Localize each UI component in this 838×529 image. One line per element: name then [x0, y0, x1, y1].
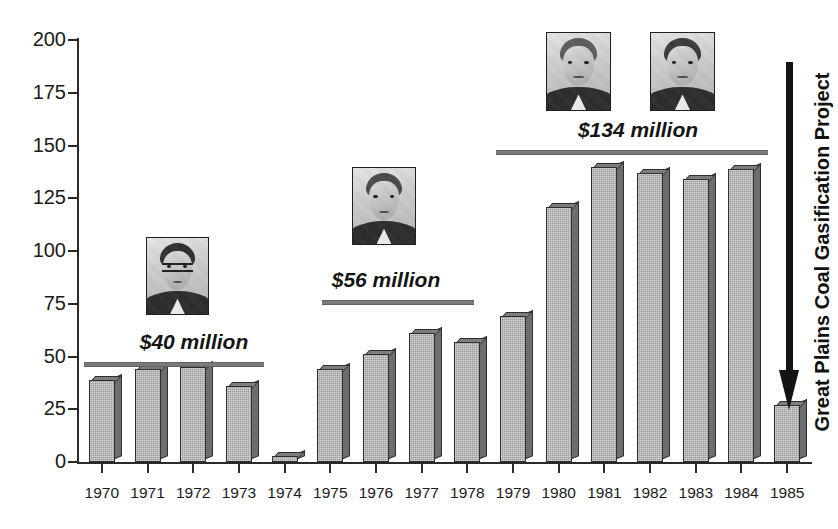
- bar-side-face: [115, 374, 122, 459]
- x-tick-mark: [558, 464, 560, 473]
- x-tick-label-1976: 1976: [350, 484, 402, 501]
- bar-front-face: [317, 369, 343, 462]
- x-tick-mark: [375, 464, 377, 473]
- bar-front-face: [135, 369, 161, 462]
- photo-grain: [547, 33, 610, 110]
- bar-front-face: [591, 167, 617, 462]
- bar-front-face: [683, 179, 709, 462]
- bar-1981: [591, 167, 617, 462]
- y-tick-label-text: 150: [20, 135, 66, 155]
- bar-side-face: [252, 380, 259, 459]
- x-tick-mark: [238, 464, 240, 473]
- portrait-photo-era-1: [146, 237, 209, 315]
- era-2-label: $56 million: [306, 268, 466, 291]
- bar-side-face: [526, 310, 533, 459]
- bar-side-face: [343, 363, 350, 459]
- bar-1971: [135, 369, 161, 462]
- bar-front-face: [226, 386, 252, 462]
- portrait-photo-era-3-b: [650, 32, 715, 111]
- bar-1985: [774, 405, 800, 462]
- bar-side-face: [709, 173, 716, 459]
- down-arrow-icon: [779, 62, 799, 410]
- x-tick-mark: [512, 464, 514, 473]
- y-tick-label-text: 175: [20, 82, 66, 102]
- era-1-rule: [84, 362, 264, 367]
- x-tick-label-1982: 1982: [624, 484, 676, 501]
- bar-front-face: [637, 173, 663, 462]
- x-tick-label-1970: 1970: [76, 484, 128, 501]
- x-tick-label-1977: 1977: [396, 484, 448, 501]
- x-tick-label-1973: 1973: [213, 484, 265, 501]
- bar-side-face: [480, 336, 487, 459]
- x-tick-mark: [147, 464, 149, 473]
- bar-chart: 2001751501251007550250 19701971197219731…: [0, 0, 838, 529]
- x-tick-mark: [695, 464, 697, 473]
- x-tick-label-1980: 1980: [533, 484, 585, 501]
- x-tick-mark: [466, 464, 468, 473]
- bar-front-face: [546, 207, 572, 462]
- bar-1982: [637, 173, 663, 462]
- y-tick-label: 200: [10, 29, 66, 49]
- y-tick-label: 50: [10, 346, 66, 366]
- y-tick-label: 0: [10, 451, 66, 471]
- x-tick-mark: [740, 464, 742, 473]
- x-tick-label-1971: 1971: [122, 484, 174, 501]
- y-tick-mark: [68, 461, 77, 463]
- y-tick-label: 125: [10, 187, 66, 207]
- x-tick-label-1984: 1984: [715, 484, 767, 501]
- bar-front-face: [774, 405, 800, 462]
- y-tick-label-text: 25: [20, 398, 66, 418]
- y-tick-label: 175: [10, 82, 66, 102]
- project-callout-label: Great Plains Coal Gasification Project: [811, 72, 833, 431]
- bar-front-face: [454, 342, 480, 462]
- bar-1974: [272, 456, 298, 462]
- photo-grain: [353, 168, 415, 244]
- x-tick-label-1974: 1974: [259, 484, 311, 501]
- bar-1973: [226, 386, 252, 462]
- era-2-rule: [322, 300, 474, 305]
- x-tick-label-1983: 1983: [670, 484, 722, 501]
- bar-front-face: [409, 333, 435, 462]
- bar-front-face: [89, 380, 115, 462]
- y-tick-mark: [68, 408, 77, 410]
- y-tick-mark: [68, 303, 77, 305]
- bar-1972: [180, 367, 206, 462]
- y-tick-mark: [68, 197, 77, 199]
- x-tick-mark: [786, 464, 788, 473]
- y-tick-mark: [68, 145, 77, 147]
- bar-front-face: [500, 316, 526, 462]
- bar-side-face: [435, 327, 442, 459]
- bar-side-face: [754, 163, 761, 459]
- bar-side-face: [206, 361, 213, 459]
- bar-1976: [363, 354, 389, 462]
- y-tick-mark: [68, 356, 77, 358]
- y-tick-label-text: 75: [20, 293, 66, 313]
- photo-grain: [147, 238, 208, 314]
- bar-side-face: [389, 348, 396, 459]
- arrow-shaft: [786, 62, 793, 374]
- y-tick-label-text: 0: [20, 451, 66, 471]
- era-1-label: $40 million: [114, 330, 274, 353]
- x-tick-label-1979: 1979: [487, 484, 539, 501]
- y-tick-label: 150: [10, 135, 66, 155]
- x-tick-mark: [603, 464, 605, 473]
- bar-front-face: [363, 354, 389, 462]
- y-tick-label-text: 125: [20, 187, 66, 207]
- x-tick-label-1975: 1975: [304, 484, 356, 501]
- y-axis-line: [77, 38, 79, 464]
- y-tick-mark: [68, 39, 77, 41]
- bar-1975: [317, 369, 343, 462]
- x-tick-mark: [284, 464, 286, 473]
- y-tick-label-text: 200: [20, 29, 66, 49]
- x-tick-mark: [421, 464, 423, 473]
- x-tick-mark: [329, 464, 331, 473]
- y-tick-label-text: 100: [20, 240, 66, 260]
- bar-1980: [546, 207, 572, 462]
- y-tick-label: 100: [10, 240, 66, 260]
- bar-side-face: [663, 167, 670, 459]
- x-tick-label-1985: 1985: [761, 484, 813, 501]
- portrait-photo-era-3-a: [546, 32, 611, 111]
- photo-grain: [651, 33, 714, 110]
- bar-1979: [500, 316, 526, 462]
- bar-1970: [89, 380, 115, 462]
